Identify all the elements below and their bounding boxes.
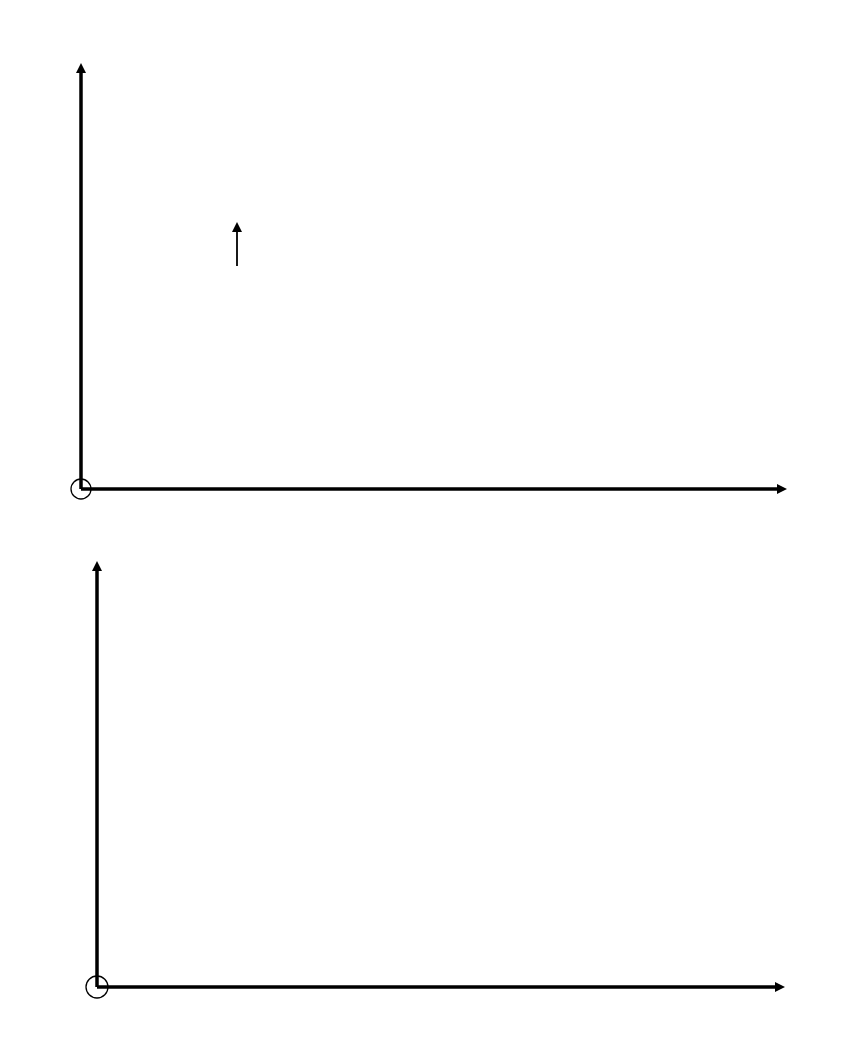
figure-canvas (0, 0, 867, 1061)
permeability-chart (0, 0, 780, 998)
bh-chart (0, 0, 782, 499)
